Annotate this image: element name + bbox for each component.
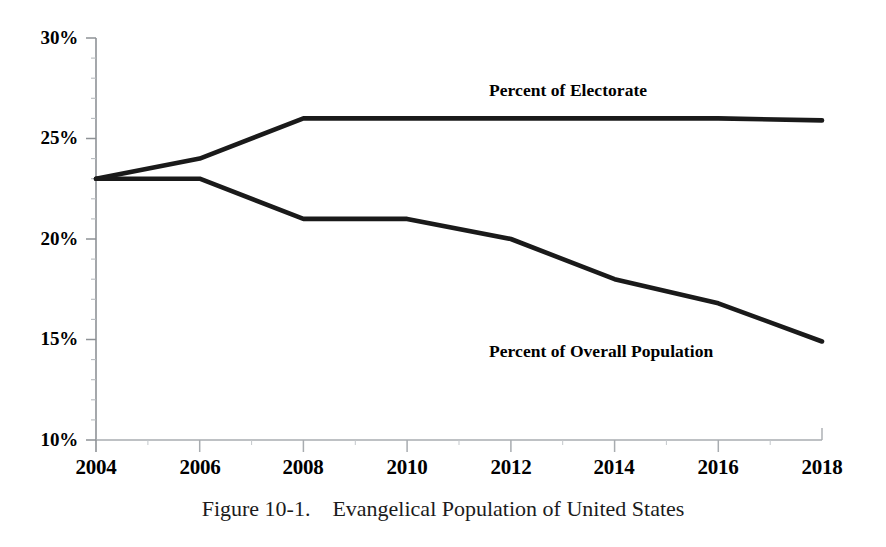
- y-tick-label-15: 15%: [16, 328, 78, 350]
- x-tick-label-2006: 2006: [150, 455, 250, 480]
- y-tick-label-20: 20%: [16, 228, 78, 250]
- x-tick-label-2018: 2018: [772, 455, 872, 480]
- plot-background: [0, 0, 886, 500]
- series-annotation-percent-of-electorate: Percent of Electorate: [489, 80, 647, 101]
- y-tick-label-25: 25%: [16, 127, 78, 149]
- y-tick-label-10: 10%: [16, 429, 78, 451]
- x-tick-label-2012: 2012: [461, 455, 561, 480]
- x-tick-label-2016: 2016: [668, 455, 768, 480]
- line-chart-plot: [0, 0, 886, 500]
- figure-caption: Figure 10-1. Evangelical Population of U…: [0, 496, 886, 522]
- x-tick-label-2008: 2008: [253, 455, 353, 480]
- series-annotation-percent-of-overall-population: Percent of Overall Population: [489, 341, 713, 362]
- x-tick-label-2004: 2004: [46, 455, 146, 480]
- x-tick-label-2014: 2014: [564, 455, 664, 480]
- x-tick-label-2010: 2010: [357, 455, 457, 480]
- figure-container: 30% 25% 20% 15% 10% 2004 2006 2008 2010 …: [0, 0, 886, 547]
- y-tick-label-30: 30%: [16, 27, 78, 49]
